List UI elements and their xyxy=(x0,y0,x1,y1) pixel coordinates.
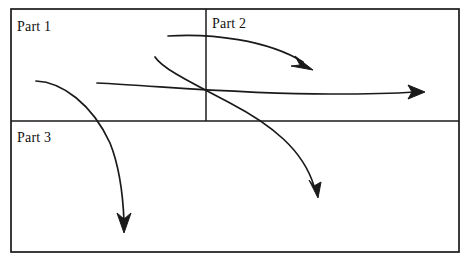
diagram-graphics xyxy=(0,0,470,264)
diagram-canvas: Part 1 Part 2 Part 3 xyxy=(0,0,470,264)
region-label-part-2: Part 2 xyxy=(212,17,246,31)
diagram-frame xyxy=(11,9,459,252)
region-label-part-1: Part 1 xyxy=(17,20,51,34)
region-label-part-3: Part 3 xyxy=(17,131,51,145)
